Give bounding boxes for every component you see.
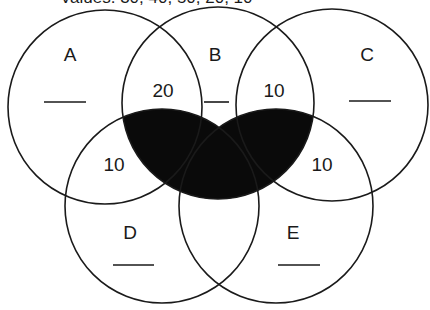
- label-b: B: [209, 44, 222, 65]
- label-e: E: [287, 222, 300, 243]
- label-d: D: [123, 222, 137, 243]
- value-a-b: 20: [152, 80, 173, 101]
- value-a-d: 10: [103, 154, 124, 175]
- diagram-title: Values: 30, 40, 50, 20, 10: [60, 0, 253, 7]
- label-c: C: [360, 44, 374, 65]
- label-a: A: [64, 44, 77, 65]
- venn-diagram: Values: 30, 40, 50, 20, 10 A B C D E 20 …: [0, 0, 430, 310]
- shaded-region: [65, 109, 373, 303]
- value-c-e: 10: [311, 154, 332, 175]
- value-b-c: 10: [263, 80, 284, 101]
- venn-svg: Values: 30, 40, 50, 20, 10 A B C D E 20 …: [0, 0, 430, 310]
